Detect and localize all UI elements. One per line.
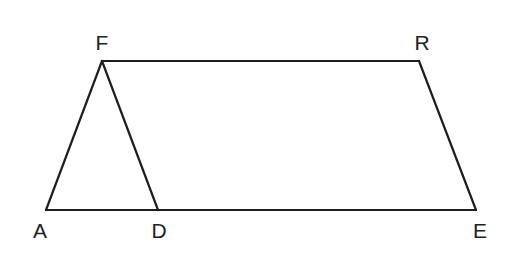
vertex-label-a: A [33, 219, 47, 242]
vertex-label-r: R [414, 31, 429, 54]
vertex-label-f: F [96, 31, 109, 54]
geometry-diagram: F R A D E [0, 0, 519, 257]
vertex-label-d: D [151, 219, 166, 242]
segment-fd [102, 61, 158, 210]
segment-re [419, 61, 476, 210]
vertex-label-e: E [473, 219, 487, 242]
segment-af [46, 61, 102, 210]
segments-group [46, 61, 476, 210]
